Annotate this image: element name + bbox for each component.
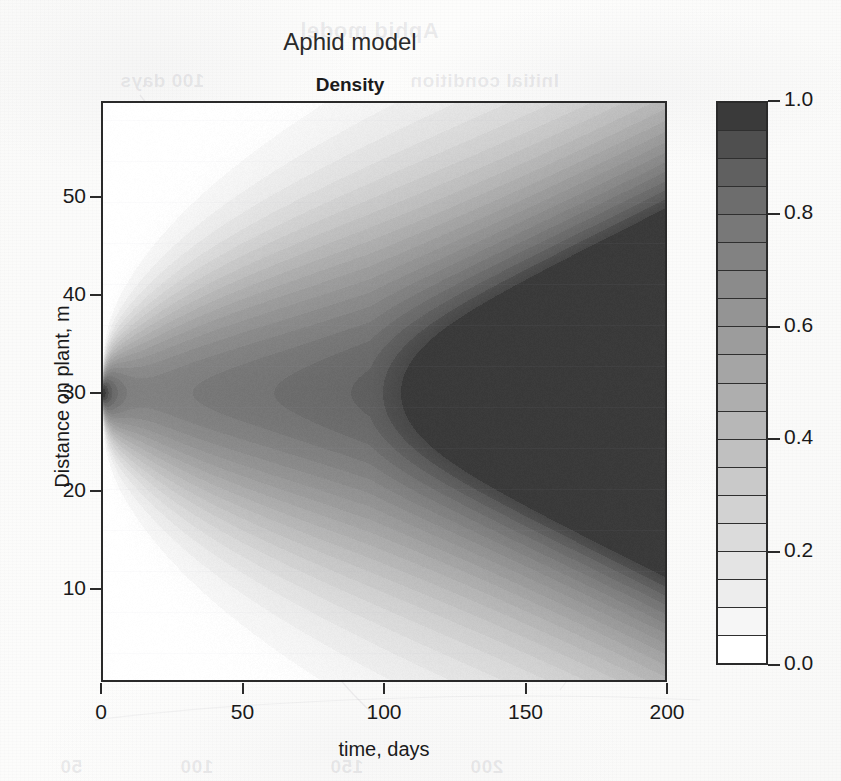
colorbar-tick <box>768 664 780 666</box>
colorbar-band <box>718 270 766 298</box>
colorbar-band <box>718 439 766 467</box>
colorbar-tick-label: 0.2 <box>784 538 813 562</box>
colorbar-tick <box>768 326 780 328</box>
colorbar-band <box>718 635 766 663</box>
heatmap-plot-area <box>101 101 667 682</box>
colorbar-tick <box>768 551 780 553</box>
subplot-title: Density <box>0 74 700 96</box>
colorbar-band <box>718 495 766 523</box>
x-axis-tick <box>383 683 385 694</box>
colorbar-tick <box>768 438 780 440</box>
colorbar-tick <box>768 213 780 215</box>
x-axis-tick <box>242 683 244 694</box>
y-axis-tick <box>90 490 101 492</box>
y-axis-tick <box>90 196 101 198</box>
x-axis-tick-label: 200 <box>632 700 702 724</box>
colorbar-band <box>718 354 766 382</box>
colorbar-band <box>718 242 766 270</box>
colorbar-tick-label: 1.0 <box>784 87 813 111</box>
y-axis-label: Distance on plant, m <box>51 167 74 627</box>
colorbar-band <box>718 158 766 186</box>
colorbar-tick-label: 0.8 <box>784 200 813 224</box>
y-axis-tick <box>90 392 101 394</box>
density-colorbar <box>716 101 768 665</box>
bleed-through-text: 50 <box>60 756 82 778</box>
x-axis-tick-label: 100 <box>349 700 419 724</box>
colorbar-band <box>718 551 766 579</box>
colorbar-band <box>718 579 766 607</box>
colorbar-tick <box>768 100 780 102</box>
x-axis-tick <box>100 683 102 694</box>
x-axis-label: time, days <box>101 738 667 761</box>
colorbar-band <box>718 186 766 214</box>
colorbar-band <box>718 467 766 495</box>
colorbar-band <box>718 607 766 635</box>
colorbar-band <box>718 411 766 439</box>
colorbar-tick-label: 0.0 <box>784 651 813 675</box>
x-axis-tick-label: 150 <box>491 700 561 724</box>
colorbar-band <box>718 383 766 411</box>
colorbar-band <box>718 298 766 326</box>
density-heatmap <box>103 103 665 680</box>
x-axis-tick <box>666 683 668 694</box>
y-axis-tick <box>90 294 101 296</box>
x-axis-tick-label: 50 <box>208 700 278 724</box>
x-axis-tick <box>525 683 527 694</box>
colorbar-tick-label: 0.6 <box>784 313 813 337</box>
colorbar-band <box>718 523 766 551</box>
colorbar-band <box>718 214 766 242</box>
page-title: Aphid model <box>0 28 700 56</box>
y-axis-tick <box>90 588 101 590</box>
x-axis-tick-label: 0 <box>66 700 136 724</box>
colorbar-band <box>718 130 766 158</box>
colorbar-tick-label: 0.4 <box>784 425 813 449</box>
colorbar-band <box>718 103 766 130</box>
colorbar-band <box>718 326 766 354</box>
